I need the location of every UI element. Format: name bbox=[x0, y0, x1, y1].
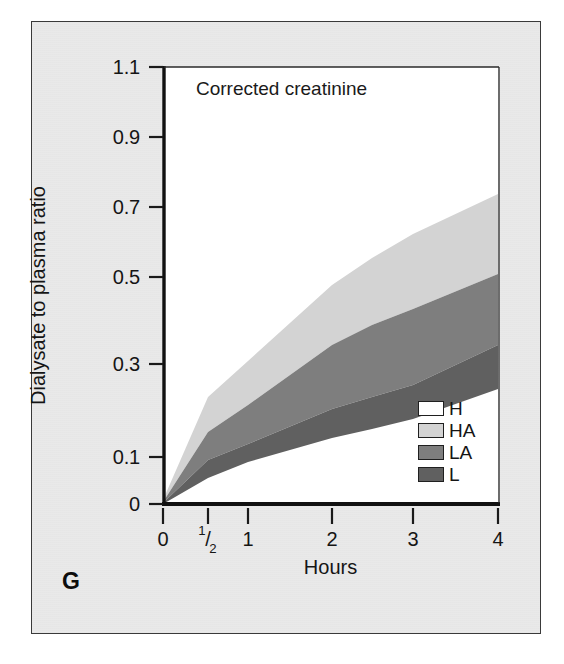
y-tick-label-3: 0.7 bbox=[88, 196, 140, 219]
x-tick-label-2: 1/2 bbox=[198, 526, 218, 554]
x-tick-label-1: 0 bbox=[158, 528, 169, 551]
legend-item-ha: HA bbox=[418, 420, 502, 440]
legend-swatch-la bbox=[418, 445, 444, 460]
x-tick-label-3: 1 bbox=[243, 528, 254, 551]
one-half-fraction: 1/2 bbox=[198, 526, 218, 554]
legend-label-h: H bbox=[449, 399, 463, 418]
y-tick-label-4: 0.5 bbox=[88, 266, 140, 289]
y-tick-label-1: 1.1 bbox=[88, 56, 140, 79]
legend-label-ha: HA bbox=[449, 421, 475, 440]
x-tick-label-5: 3 bbox=[408, 528, 419, 551]
y-tick-label-6: 0.1 bbox=[88, 446, 140, 469]
legend-label-l: L bbox=[449, 465, 460, 484]
y-tick-label-2: 0.9 bbox=[88, 126, 140, 149]
y-axis-title: Dialysate to plasma ratio bbox=[27, 146, 50, 446]
panel-label: G bbox=[62, 568, 80, 595]
y-tick-marks bbox=[149, 67, 163, 504]
legend-swatch-ha bbox=[418, 423, 444, 438]
y-tick-label-5: 0.3 bbox=[88, 353, 140, 376]
x-tick-label-4: 2 bbox=[327, 528, 338, 551]
legend-item-la: LA bbox=[418, 442, 502, 462]
plot-title: Corrected creatinine bbox=[196, 78, 367, 100]
legend: H HA LA L bbox=[418, 398, 502, 486]
x-axis-title: Hours bbox=[163, 556, 498, 579]
legend-item-h: H bbox=[418, 398, 502, 418]
y-tick-label-7: 0 bbox=[88, 493, 140, 516]
legend-label-la: LA bbox=[449, 443, 472, 462]
legend-swatch-h bbox=[418, 401, 444, 416]
x-tick-label-6: 4 bbox=[493, 528, 504, 551]
x-tick-marks bbox=[163, 508, 498, 524]
legend-swatch-l bbox=[418, 467, 444, 482]
legend-item-l: L bbox=[418, 464, 502, 484]
